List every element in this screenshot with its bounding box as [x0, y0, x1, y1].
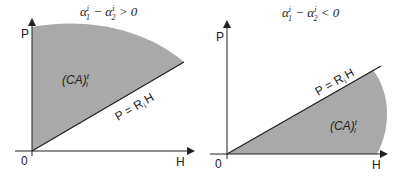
x-axis-label-left: H [176, 155, 185, 169]
diagram-canvas: αi1 − αi2 > 0 P 0 H (CA)ti P = RiH αi1 −… [0, 0, 400, 178]
feasible-region-left [32, 23, 184, 151]
origin-label-left: 0 [21, 154, 28, 168]
origin-label-right: 0 [215, 157, 222, 171]
y-axis-label-left: P [21, 27, 29, 41]
y-axis-label-right: P [216, 30, 224, 44]
x-axis-label-right: H [372, 158, 381, 172]
panel-title-left: αi1 − αi2 > 0 [80, 4, 138, 22]
region-label-right: (CA)ti [330, 118, 358, 135]
region-label-left: (CA)ti [62, 72, 90, 89]
panel-left: αi1 − αi2 > 0 P 0 H (CA)ti P = RiH [15, 4, 193, 169]
panel-title-right: αi1 − αi2 < 0 [282, 5, 340, 23]
panel-right: αi1 − αi2 < 0 P 0 H (CA)ti P = RiH [210, 5, 387, 172]
feasible-region-right [227, 70, 387, 154]
